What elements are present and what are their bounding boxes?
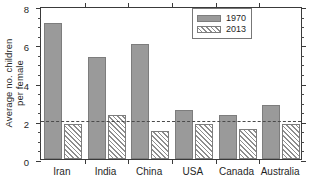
y-minor-tick [38,56,41,57]
y-minor-tick-right [301,104,304,105]
y-minor-tick-right [301,94,304,95]
bar-canada-2013 [239,129,257,159]
y-minor-tick-right [301,27,304,28]
legend-label-1970: 1970 [226,14,246,23]
bar-australia-1970 [262,105,280,160]
bar-usa-2013 [195,124,213,159]
bar-china-2013 [151,131,169,159]
x-tick-top [85,3,86,8]
replacement-level-reference-line [41,121,301,122]
x-tick-top [128,3,129,8]
y-tick-label-4: 4 [24,80,29,91]
y-tick-right-0 [301,161,306,162]
y-axis-title-line1: Average no. children [3,38,14,127]
y-minor-tick [38,142,41,143]
y-minor-tick [38,132,41,133]
x-axis-label-australia: Australia [261,166,300,177]
y-tick-right-8 [301,8,306,9]
y-minor-tick [38,18,41,19]
y-tick-2: 2 [36,123,41,124]
x-tick [172,159,173,164]
y-minor-tick [38,75,41,76]
x-axis-label-iran: Iran [53,166,70,177]
x-tick [259,159,260,164]
legend-swatch-1970 [197,15,221,22]
bar-india-1970 [88,57,106,159]
bar-iran-2013 [64,124,82,159]
y-minor-tick-right [301,65,304,66]
bar-iran-1970 [44,23,62,159]
plot-area: 02468 [40,7,302,160]
x-tick-top [259,3,260,8]
y-tick-label-2: 2 [24,118,29,129]
y-minor-tick [38,65,41,66]
x-tick [128,159,129,164]
x-axis-label-canada: Canada [219,166,254,177]
y-minor-tick [38,27,41,28]
y-minor-tick-right [301,75,304,76]
y-minor-tick [38,94,41,95]
y-tick-8: 8 [36,8,41,9]
y-minor-tick-right [301,151,304,152]
legend-item-1970: 1970 [197,13,246,23]
bar-australia-2013 [282,124,300,159]
y-minor-tick [38,104,41,105]
legend-label-2013: 2013 [226,25,246,34]
y-tick-right-4 [301,85,306,86]
x-tick [85,159,86,164]
x-axis-label-usa: USA [183,166,204,177]
y-tick-0: 0 [36,161,41,162]
legend: 19702013 [192,8,252,39]
x-axis-label-india: India [95,166,117,177]
bar-china-1970 [131,44,149,159]
y-minor-tick [38,37,41,38]
x-tick-top [172,3,173,8]
y-tick-4: 4 [36,85,41,86]
y-minor-tick-right [301,113,304,114]
y-tick-label-6: 6 [24,42,29,53]
y-tick-6: 6 [36,46,41,47]
y-minor-tick-right [301,132,304,133]
legend-item-2013: 2013 [197,24,246,34]
x-tick [216,159,217,164]
y-minor-tick [38,151,41,152]
y-tick-label-0: 0 [24,157,29,168]
y-minor-tick-right [301,18,304,19]
y-tick-right-2 [301,123,306,124]
y-tick-label-8: 8 [24,4,29,15]
y-tick-right-6 [301,46,306,47]
y-minor-tick-right [301,56,304,57]
bar-usa-1970 [175,110,193,159]
fertility-bar-chart: Average no. children per female 02468 Ir… [0,0,310,184]
y-minor-tick-right [301,142,304,143]
y-minor-tick [38,113,41,114]
legend-swatch-2013 [197,26,221,33]
y-minor-tick-right [301,37,304,38]
x-axis-label-china: China [136,166,162,177]
